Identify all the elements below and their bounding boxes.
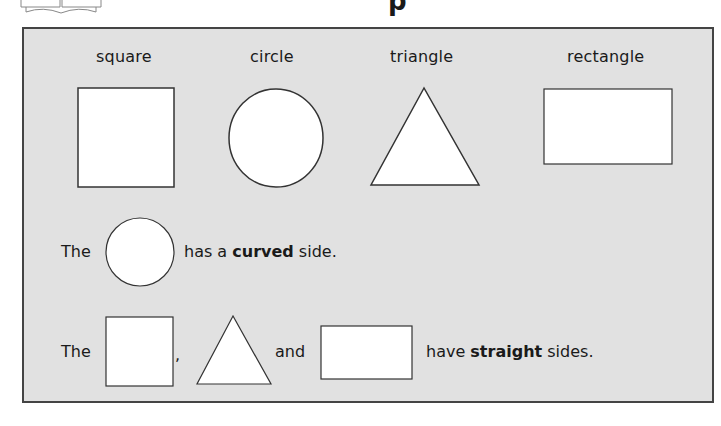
small-rectangle-shape [321,326,412,379]
small-triangle-shape [197,316,271,384]
triangle-shape [371,88,479,185]
sentence1-rest: has a curved side. [184,242,337,261]
sentence2-comma: , [175,345,180,364]
circle-shape [229,89,323,187]
square-shape [78,88,174,187]
sentence2-the: The [61,342,91,361]
sentence1-bold-word: curved [232,242,294,261]
rectangle-shape [544,89,672,164]
small-square-shape [106,317,173,386]
sentence2-rest: have straight sides. [426,342,593,361]
sentence2-text-end: sides. [542,342,593,361]
sentence2-and: and [275,342,305,361]
sentence2-text: have [426,342,470,361]
sentence2-bold-word: straight [470,342,542,361]
shapes-layer [0,0,721,426]
sentence1-the: The [61,242,91,261]
sentence1-text-end: side. [294,242,337,261]
sentence1-text: has a [184,242,232,261]
small-circle-shape [106,218,174,286]
